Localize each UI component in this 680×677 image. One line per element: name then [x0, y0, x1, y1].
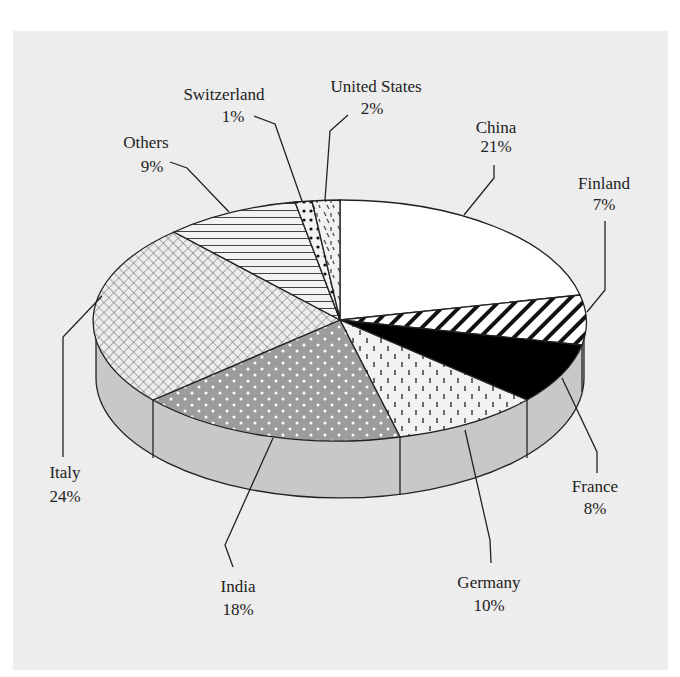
label-france-name: France: [572, 477, 618, 496]
pie-chart: China 21% Finland 7% France 8% Germany 1…: [0, 0, 680, 677]
pie-top: [93, 200, 586, 441]
label-others-pct: 9%: [141, 157, 164, 176]
label-finland-pct: 7%: [593, 195, 616, 214]
label-switzerland-pct: 1%: [222, 107, 245, 126]
leader-line-china: [464, 165, 494, 215]
label-india-name: India: [221, 577, 256, 596]
chart-stage: China 21% Finland 7% France 8% Germany 1…: [0, 0, 680, 677]
label-france-pct: 8%: [584, 499, 607, 518]
leader-line-switzerland: [254, 116, 302, 201]
label-germany-name: Germany: [457, 573, 521, 592]
label-italy-pct: 24%: [49, 487, 80, 506]
label-united-states-name: United States: [330, 77, 421, 96]
leader-line-finland: [587, 221, 605, 312]
label-switzerland-name: Switzerland: [183, 85, 265, 104]
label-india-pct: 18%: [222, 600, 253, 619]
label-china-name: China: [476, 118, 517, 137]
label-others-name: Others: [123, 133, 168, 152]
leader-line-united-states: [325, 115, 348, 200]
label-united-states-pct: 2%: [361, 99, 384, 118]
label-china-pct: 21%: [480, 137, 511, 156]
label-italy-name: Italy: [49, 463, 81, 482]
label-finland-name: Finland: [578, 174, 630, 193]
label-germany-pct: 10%: [473, 596, 504, 615]
leader-line-others: [170, 162, 229, 212]
